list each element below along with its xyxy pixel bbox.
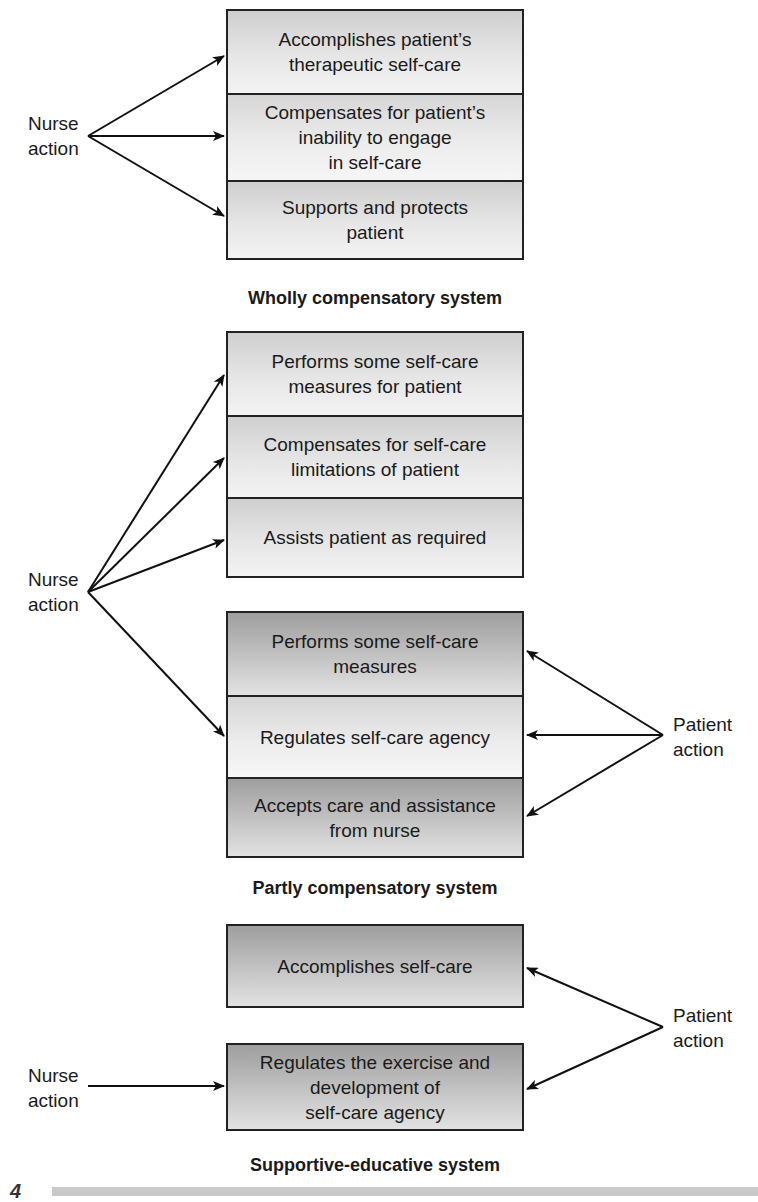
partly-patient-cell-1: Performs some self-care measures [228, 613, 522, 695]
wholly-cell-1: Accomplishes patient’s therapeutic self-… [228, 11, 522, 93]
partly-patient-cell-2: Regulates self-care agency [228, 695, 522, 777]
supportive-selfcare-box: Accomplishes self-care [226, 924, 524, 1008]
partly-patient-cell-3: Accepts care and assistance from nurse [228, 777, 522, 856]
wholly-compensatory-title: Wholly compensatory system [226, 288, 524, 309]
partly-patient-box: Performs some self-care measures Regulat… [226, 611, 524, 858]
patient-action-label-supportive: Patient action [673, 1003, 732, 1053]
partly-nurse-cell-3: Assists patient as required [228, 497, 522, 576]
nurse-action-label-wholly: Nurse action [28, 111, 79, 161]
supportive-regulation-box: Regulates the exercise and development o… [226, 1043, 524, 1131]
wholly-cell-2: Compensates for patient’s inability to e… [228, 93, 522, 180]
partly-compensatory-title: Partly compensatory system [226, 878, 524, 899]
supportive-cell-1: Accomplishes self-care [228, 926, 522, 1006]
nurse-action-label-supportive: Nurse action [28, 1063, 79, 1113]
wholly-cell-3: Supports and protects patient [228, 180, 522, 258]
wholly-compensatory-box: Accomplishes patient’s therapeutic self-… [226, 9, 524, 260]
figure-number-fragment: 4 [10, 1180, 21, 1202]
partly-nurse-cell-1: Performs some self-care measures for pat… [228, 333, 522, 415]
nurse-action-label-partly: Nurse action [28, 567, 79, 617]
supportive-cell-2: Regulates the exercise and development o… [228, 1045, 522, 1129]
partly-nurse-cell-2: Compensates for self-care limitations of… [228, 415, 522, 497]
supportive-educative-title: Supportive-educative system [226, 1155, 524, 1176]
patient-action-label-partly: Patient action [673, 712, 732, 762]
partly-nurse-box: Performs some self-care measures for pat… [226, 331, 524, 578]
caption-bar [52, 1187, 758, 1196]
